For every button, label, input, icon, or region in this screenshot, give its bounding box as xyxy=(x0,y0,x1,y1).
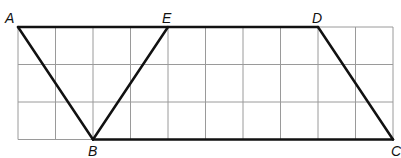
grid-lines xyxy=(18,27,393,140)
point-label-c: C xyxy=(391,144,401,158)
point-label-a: A xyxy=(5,11,14,25)
point-label-b: B xyxy=(88,144,97,158)
point-label-d: D xyxy=(312,11,322,25)
point-label-e: E xyxy=(162,11,171,25)
